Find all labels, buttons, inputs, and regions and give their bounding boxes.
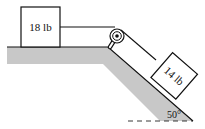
incline-angle-label: 50° [167,109,181,120]
pulley-incline-diagram: 18 lb 14 lb 50° [0,0,205,129]
block-18lb-label: 18 lb [29,21,52,33]
rope-incline [121,30,156,60]
